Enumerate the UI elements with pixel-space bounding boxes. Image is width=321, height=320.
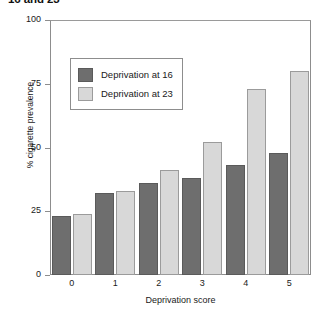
x-tick-label: 3 bbox=[182, 278, 222, 288]
x-axis-label: Deprivation score bbox=[50, 295, 311, 305]
bar-chart: 0255075100 % cigarette prevalence 012345… bbox=[0, 0, 321, 320]
legend-item: Deprivation at 23 bbox=[78, 84, 173, 103]
y-tick-label: 0 bbox=[36, 269, 41, 279]
bar bbox=[182, 178, 201, 275]
bar bbox=[116, 191, 135, 275]
y-tick-mark bbox=[45, 211, 50, 212]
legend: Deprivation at 16Deprivation at 23 bbox=[70, 58, 183, 110]
bar bbox=[160, 170, 179, 275]
x-tick-label: 1 bbox=[95, 278, 135, 288]
y-axis-label: % cigarette prevalence bbox=[25, 40, 35, 210]
x-tick-label: 2 bbox=[139, 278, 179, 288]
bar bbox=[73, 214, 92, 275]
bar bbox=[247, 89, 266, 275]
y-tick-mark bbox=[45, 20, 50, 21]
bar bbox=[52, 216, 71, 275]
y-tick-mark bbox=[45, 275, 50, 276]
x-tick-label: 0 bbox=[52, 278, 92, 288]
x-tick-label: 4 bbox=[226, 278, 266, 288]
bar bbox=[203, 142, 222, 275]
y-tick-mark bbox=[45, 148, 50, 149]
bar bbox=[290, 71, 309, 275]
bar bbox=[226, 165, 245, 275]
bar bbox=[269, 153, 288, 275]
legend-item: Deprivation at 16 bbox=[78, 65, 173, 84]
bar bbox=[139, 183, 158, 275]
legend-item-label: Deprivation at 23 bbox=[101, 88, 173, 99]
y-tick-label: 100 bbox=[26, 14, 41, 24]
legend-swatch-icon bbox=[78, 68, 93, 82]
x-tick-label: 5 bbox=[269, 278, 309, 288]
y-tick-mark bbox=[45, 84, 50, 85]
legend-item-label: Deprivation at 16 bbox=[101, 69, 173, 80]
legend-swatch-icon bbox=[78, 87, 93, 101]
bar bbox=[95, 193, 114, 275]
